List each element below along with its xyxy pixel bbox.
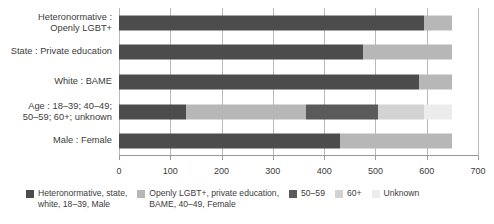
x-tick-label: 600 (419, 166, 434, 176)
tick-mark (273, 156, 274, 160)
legend-label: 60+ (347, 188, 362, 199)
bar-segment (419, 74, 452, 89)
x-tick-label: 0 (116, 166, 121, 176)
bar-row: Heteronormative :Openly LGBT+ (119, 8, 478, 38)
legend-label: Unknown (384, 188, 420, 199)
bar-segment (119, 74, 419, 89)
bar-segment (424, 104, 452, 119)
legend-swatch-icon (26, 190, 34, 198)
tick-mark (170, 156, 171, 160)
legend-swatch-icon (289, 190, 297, 198)
legend-label: Openly LGBT+, private education, BAME, 4… (149, 188, 279, 209)
tick-mark (324, 156, 325, 160)
bar-segment (378, 104, 424, 119)
legend-label: Heteronormative, state, white, 18–39, Ma… (38, 188, 127, 209)
legend-swatch-icon (372, 190, 380, 198)
legend-item[interactable]: Heteronormative, state, white, 18–39, Ma… (26, 188, 127, 209)
legend-label: 50–59 (301, 188, 325, 199)
stacked-bar (119, 45, 452, 60)
stacked-bar-chart: 0100200300400500600700 Heteronormative :… (0, 0, 494, 224)
bar-segment (340, 134, 453, 149)
gridline (478, 8, 479, 156)
bar-row: Age : 18–39; 40–49;50–59; 60+; unknown (119, 97, 478, 127)
stacked-bar (119, 74, 452, 89)
stacked-bar (119, 15, 452, 30)
category-label: State : Private education (11, 47, 112, 59)
category-label: White : BAME (54, 76, 112, 88)
legend-item[interactable]: 50–59 (289, 188, 325, 199)
x-tick-label: 400 (317, 166, 332, 176)
tick-mark (478, 156, 479, 160)
tick-mark (427, 156, 428, 160)
bar-segment (119, 104, 186, 119)
stacked-bar (119, 134, 452, 149)
category-label: Heteronormative :Openly LGBT+ (38, 11, 112, 34)
x-tick-label: 300 (265, 166, 280, 176)
legend-item[interactable]: Unknown (372, 188, 420, 199)
legend-swatch-icon (137, 190, 145, 198)
bar-row: Male : Female (119, 126, 478, 156)
tick-mark (375, 156, 376, 160)
bar-segment (119, 15, 424, 30)
bar-segment (119, 134, 340, 149)
bar-segment (119, 45, 363, 60)
x-tick-label: 700 (470, 166, 485, 176)
bar-row: State : Private education (119, 38, 478, 68)
x-tick-label: 500 (368, 166, 383, 176)
bar-segment (186, 104, 307, 119)
bar-segment (424, 15, 452, 30)
tick-mark (119, 156, 120, 160)
x-tick-label: 100 (163, 166, 178, 176)
stacked-bar (119, 104, 452, 119)
chart-legend: Heteronormative, state, white, 18–39, Ma… (26, 188, 494, 222)
legend-item[interactable]: 60+ (335, 188, 362, 199)
bar-row: White : BAME (119, 67, 478, 97)
plot-area: 0100200300400500600700 Heteronormative :… (119, 8, 478, 156)
bar-segment (363, 45, 453, 60)
category-label: Male : Female (53, 135, 112, 147)
legend-swatch-icon (335, 190, 343, 198)
bar-segment (306, 104, 378, 119)
legend-item[interactable]: Openly LGBT+, private education, BAME, 4… (137, 188, 279, 209)
category-label: Age : 18–39; 40–49;50–59; 60+; unknown (23, 100, 112, 123)
tick-mark (222, 156, 223, 160)
x-tick-label: 200 (214, 166, 229, 176)
